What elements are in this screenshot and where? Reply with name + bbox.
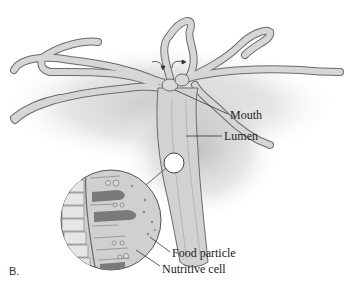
hydra-diagram — [0, 0, 352, 286]
magnify-origin-circle — [164, 153, 184, 173]
panel-label: B. — [9, 265, 19, 277]
label-nutritive-cell: Nutritive cell — [162, 262, 226, 277]
label-food-particle: Food particle — [172, 246, 236, 261]
label-lumen: Lumen — [224, 129, 258, 144]
label-mouth: Mouth — [230, 108, 262, 123]
